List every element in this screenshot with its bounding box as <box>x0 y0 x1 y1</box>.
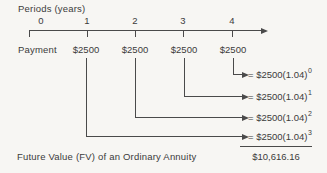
timeline-axis <box>29 30 262 31</box>
tick-label-0: 0 <box>33 15 49 26</box>
payment-value-3: $2500 <box>162 44 206 55</box>
tick-label-4: 4 <box>224 15 240 26</box>
tick-label-1: 1 <box>79 15 95 26</box>
future-value-total: $10,616.16 <box>240 151 312 162</box>
timeline-tick-2 <box>135 30 136 37</box>
formula-row-2: = $2500(1.04)1 <box>248 90 312 102</box>
formula-base-3: = $2500(1.04) <box>248 112 307 123</box>
tick-label-2: 2 <box>127 15 143 26</box>
periods-label: Periods (years) <box>18 3 85 14</box>
formula-row-1: = $2500(1.04)0 <box>248 68 312 80</box>
annuity-timeline-diagram: Periods (years) 0 1 2 3 4 Payment $2500 … <box>0 0 327 173</box>
timeline-arrowhead-icon <box>261 28 268 34</box>
payment-value-4: $2500 <box>211 44 255 55</box>
formula-exponent-3: 2 <box>308 110 312 117</box>
timeline-tick-0 <box>29 30 30 37</box>
formula-exponent-4: 3 <box>308 129 312 136</box>
timeline-tick-3 <box>183 30 184 37</box>
formula-exponent-1: 0 <box>308 67 312 74</box>
formula-base-2: = $2500(1.04) <box>248 91 307 102</box>
payment-value-1: $2500 <box>64 44 108 55</box>
formula-base-4: = $2500(1.04) <box>248 131 307 142</box>
future-value-label: Future Value (FV) of an Ordinary Annuity <box>17 151 196 162</box>
sum-line <box>240 146 312 147</box>
timeline-tick-4 <box>232 30 233 37</box>
tick-label-3: 3 <box>175 15 191 26</box>
connector-period1 <box>86 58 244 137</box>
formula-exponent-2: 1 <box>308 89 312 96</box>
formula-row-3: = $2500(1.04)2 <box>248 111 312 123</box>
formula-row-4: = $2500(1.04)3 <box>248 130 312 142</box>
payment-label: Payment <box>18 44 57 55</box>
payment-value-2: $2500 <box>113 44 157 55</box>
formula-base-1: = $2500(1.04) <box>248 69 307 80</box>
timeline-tick-1 <box>87 30 88 37</box>
